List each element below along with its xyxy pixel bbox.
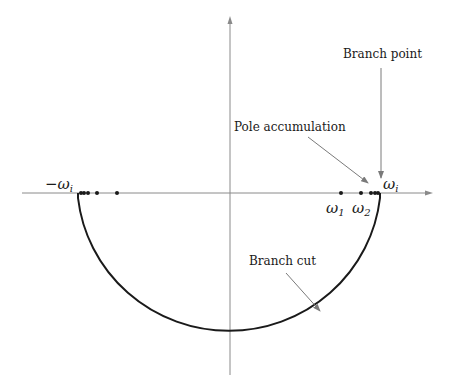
- pole-omega-2: [359, 191, 363, 195]
- pole-omega-1: [339, 191, 343, 195]
- label-neg-omega-i: −ωi: [45, 175, 73, 194]
- label-pole-accumulation: Pole accumulation: [234, 120, 346, 134]
- label-branch-point: Branch point: [343, 47, 422, 61]
- pole: [376, 191, 380, 195]
- pole: [95, 191, 99, 195]
- label-omega-1: ω1: [326, 199, 345, 218]
- pole: [115, 191, 119, 195]
- branch-cut-arrow: [286, 273, 320, 311]
- label-branch-cut: Branch cut: [249, 254, 316, 268]
- real-axis-arrow-icon: [425, 191, 433, 196]
- label-omega-2: ω2: [352, 199, 371, 218]
- pole: [369, 191, 373, 195]
- pole: [86, 191, 90, 195]
- label-omega-i: ωi: [383, 175, 398, 194]
- pole-accumulation-arrow: [308, 137, 368, 183]
- axes: [22, 16, 433, 375]
- pole: [79, 191, 83, 195]
- complex-plane-diagram: −ωi ωi ω1 ω2 Branch point Pole accumulat…: [0, 0, 452, 375]
- imaginary-axis-arrow-icon: [228, 16, 233, 24]
